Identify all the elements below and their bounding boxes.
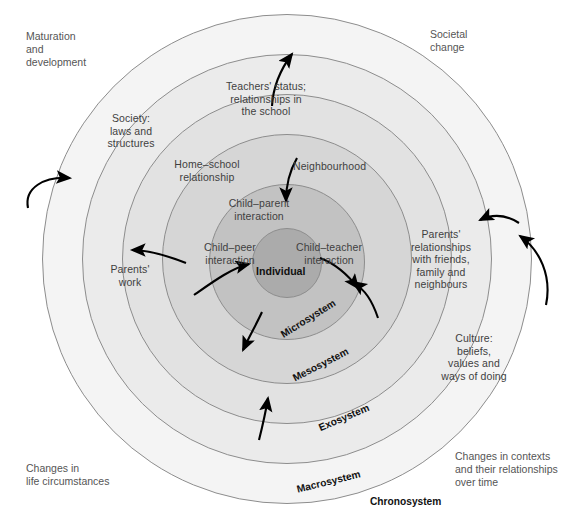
- label-changes-in-contexts: Changes in contexts and their relationsh…: [455, 450, 574, 489]
- label-culture-beliefs-values: Culture: beliefs, values and ways of doi…: [424, 332, 524, 382]
- label-maturation-and-development: Maturation and development: [26, 30, 136, 69]
- label-neighbourhood: Neighbourhood: [293, 160, 383, 173]
- ecological-systems-diagram: Maturation and development Societal chan…: [0, 0, 574, 525]
- label-teachers-status: Teachers' status; relationships in the s…: [200, 80, 332, 118]
- label-chronosystem: Chronosystem: [370, 496, 441, 507]
- label-parents-relationships: Parents' relationships with friends, fam…: [396, 228, 486, 291]
- label-societal-change: Societal change: [430, 28, 540, 54]
- label-society-laws-structures: Society: laws and structures: [86, 112, 176, 150]
- label-child-teacher-interaction: Child–teacher interaction: [286, 241, 372, 266]
- label-home-school-relationship: Home–school relationship: [158, 158, 256, 183]
- label-child-parent-interaction: Child–parent interaction: [215, 197, 303, 222]
- label-changes-in-life-circumstances: Changes in life circumstances: [26, 462, 196, 488]
- label-individual: Individual: [256, 265, 305, 277]
- label-child-peer-interaction: Child–peer interaction: [189, 241, 271, 266]
- label-parents-work: Parents' work: [98, 263, 162, 288]
